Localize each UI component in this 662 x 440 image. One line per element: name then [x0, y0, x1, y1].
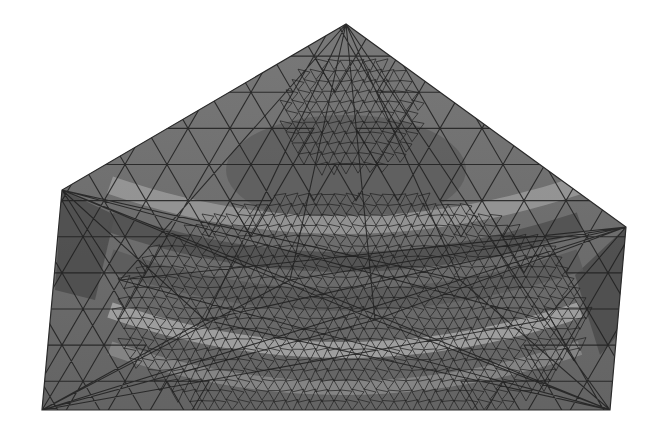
triangular-mesh-plot	[0, 0, 662, 440]
mesh-figure: Grayscale triangulated surface mesh of a…	[0, 0, 662, 440]
mesh-surface	[0, 0, 662, 440]
